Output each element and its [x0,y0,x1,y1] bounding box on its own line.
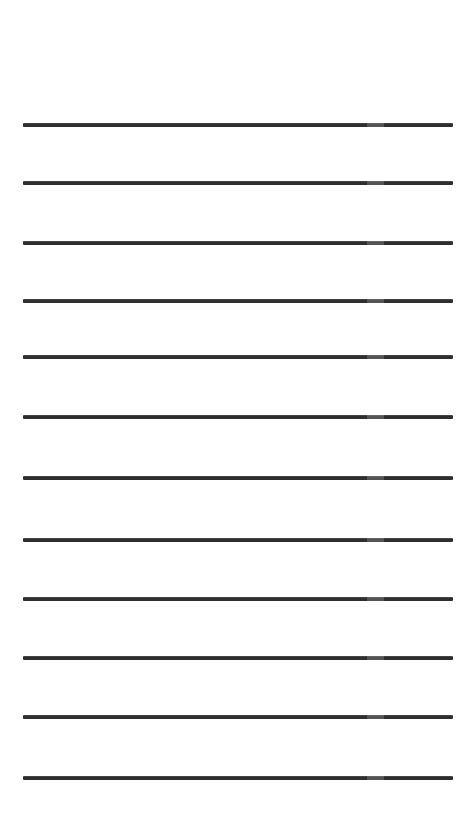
rule-line-1 [23,123,453,127]
lined-paper-page [0,0,475,824]
rule-line-12 [23,776,453,780]
rule-line-7 [23,476,453,480]
rule-line-10 [23,656,453,660]
rule-line-5 [23,355,453,359]
rule-line-6 [23,415,453,419]
rule-line-9 [23,597,453,601]
rule-line-8 [23,538,453,542]
rule-line-2 [23,181,453,185]
rule-line-4 [23,299,453,303]
rule-line-3 [23,241,453,245]
rule-line-11 [23,715,453,719]
